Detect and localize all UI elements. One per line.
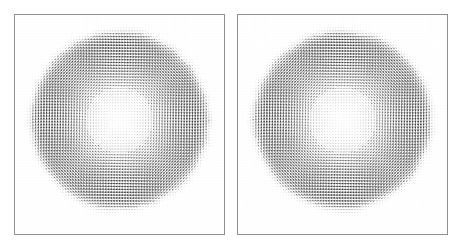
right-panel-quiver-plot (238, 15, 447, 234)
vector-field-figure (0, 0, 462, 247)
left-panel (14, 14, 225, 235)
right-panel (237, 14, 448, 235)
left-panel-quiver-plot (15, 15, 224, 234)
